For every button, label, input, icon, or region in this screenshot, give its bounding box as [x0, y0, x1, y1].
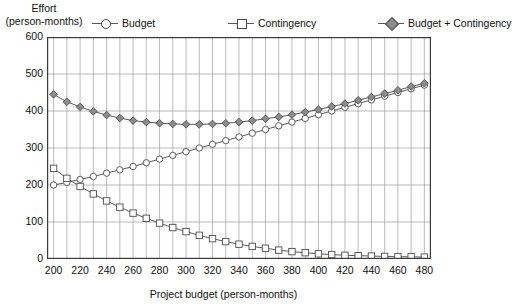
legend-label-budget: Budget — [122, 17, 155, 29]
legend-item-sum: Budget + Contingency — [378, 14, 512, 32]
chart-legend: Budget Contingency Budget + Contingency — [88, 14, 447, 32]
legend-item-contingency: Contingency — [228, 14, 316, 32]
y-tick-label: 0 — [3, 252, 43, 264]
legend-item-budget: Budget — [92, 14, 155, 32]
open-circle-icon — [92, 17, 118, 29]
x-tick-label: 480 — [409, 264, 439, 276]
y-tick-label: 300 — [3, 141, 43, 153]
y-tick-label: 500 — [3, 67, 43, 79]
x-axis-title: Project budget (person-months) — [0, 288, 447, 300]
y-axis-title-line2: (person-months) — [0, 15, 88, 28]
y-tick-label: 600 — [3, 30, 43, 42]
legend-label-contingency: Contingency — [258, 17, 316, 29]
filled-diamond-icon — [378, 17, 404, 29]
legend-label-sum: Budget + Contingency — [408, 17, 512, 29]
open-square-icon — [228, 17, 254, 29]
y-axis-title: Effort (person-months) — [0, 2, 88, 27]
y-tick-label: 200 — [3, 178, 43, 190]
y-axis-title-line1: Effort — [0, 2, 88, 15]
y-tick-label: 400 — [3, 104, 43, 116]
plot-area — [47, 37, 431, 259]
plot-svg — [47, 37, 431, 259]
y-tick-label: 100 — [3, 215, 43, 227]
